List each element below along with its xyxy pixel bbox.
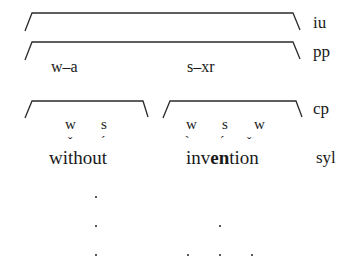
cp-right-label-w2: w	[254, 117, 265, 132]
cp-right-bracket	[163, 101, 302, 118]
grid-dot	[219, 225, 221, 227]
grid-dot	[95, 254, 97, 256]
tier-label-iu: iu	[313, 14, 326, 31]
grid-dot	[95, 225, 97, 227]
tier-label-cp: cp	[313, 100, 329, 117]
word-invention: invention	[186, 148, 259, 167]
grid-dot	[95, 196, 97, 198]
iu-bracket	[25, 13, 300, 31]
accent-acute-without: ˊ	[101, 134, 105, 147]
cp-left-label-s: s	[101, 117, 107, 132]
accent-acute-invention: ˊ	[220, 134, 224, 147]
cp-left-bracket	[25, 101, 148, 118]
pp-group-right: s–xr	[187, 59, 215, 75]
grid-dot	[187, 254, 189, 256]
word-without: without	[49, 148, 107, 167]
bracket-lines	[0, 0, 361, 262]
tier-label-pp: pp	[313, 43, 330, 60]
cp-right-label-s: s	[222, 117, 228, 132]
accent-grave-invention: ˋ	[185, 134, 189, 147]
cp-left-label-w: w	[65, 117, 76, 132]
cp-right-label-w1: w	[186, 117, 197, 132]
tier-label-syl: syl	[316, 149, 336, 166]
pp-group-left: w–a	[51, 59, 78, 75]
grid-dot	[251, 254, 253, 256]
grid-dot	[219, 254, 221, 256]
